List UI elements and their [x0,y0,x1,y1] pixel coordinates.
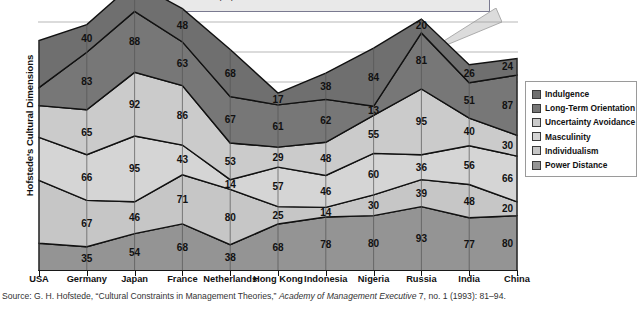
legend: IndulgenceLong-Term OrientationUncertain… [525,81,637,177]
data-value-label: 46 [320,186,332,197]
plot-area: 4035546838687880937780916746718025143039… [38,0,518,271]
data-value-label: 30 [368,200,380,211]
data-value-label: 83 [81,76,93,87]
data-value-label: 13 [368,105,380,116]
data-value-label: 29 [272,152,284,163]
data-value-label: 77 [464,239,476,250]
data-value-label: 51 [464,95,476,106]
data-value-label: 46 [129,212,141,223]
data-value-label: 38 [225,252,237,263]
data-value-label: 17 [272,94,284,105]
data-value-label: 57 [272,181,284,192]
data-value-label: 26 [464,68,476,79]
data-value-label: 95 [416,116,428,127]
data-value-label: 61 [272,121,284,132]
data-value-label: 39 [416,188,428,199]
legend-item[interactable]: Power Distance [532,158,631,172]
source-note: Source: G. H. Hofstede, “Cultural Constr… [2,291,638,301]
data-value-label: 80 [225,212,237,223]
legend-item-label: Indulgence [545,89,589,99]
legend-item[interactable]: Uncertainty Avoidance [532,115,631,129]
data-value-label: 66 [502,173,514,184]
data-value-label: 14 [225,179,237,190]
data-value-label: 20 [502,203,514,214]
data-value-label: 36 [416,162,428,173]
data-value-label: 66 [81,172,93,183]
data-value-label: 42 [129,0,141,2]
data-value-label: 55 [368,129,380,140]
data-value-label: 43 [177,154,189,165]
data-value-label: 60 [368,169,380,180]
legend-item-label: Long-Term Orientation [545,103,635,113]
data-value-label: 67 [225,114,237,125]
chart-figure: has a strong long-term orientation (87),… [0,0,639,309]
data-value-label: 53 [225,156,237,167]
data-value-label: 54 [129,247,141,258]
data-value-label: 35 [81,253,93,264]
data-value-label: 68 [272,242,284,253]
legend-item[interactable]: Long-Term Orientation [532,101,631,115]
data-value-label: 63 [177,58,189,69]
legend-swatch-icon [532,161,541,170]
x-axis-ticks [38,271,518,277]
legend-swatch-icon [532,90,541,99]
data-value-label: 67 [81,218,93,229]
data-value-label: 95 [129,163,141,174]
legend-swatch-icon [532,104,541,113]
legend-swatch-icon [532,132,541,141]
data-value-label: 88 [129,36,141,47]
data-value-label: 48 [464,196,476,207]
legend-swatch-icon [532,146,541,155]
data-value-label: 48 [177,20,189,31]
data-value-label: 20 [416,20,428,31]
data-value-label: 14 [320,207,332,218]
legend-item-label: Power Distance [545,160,607,170]
data-value-label: 24 [502,61,514,72]
legend-item-label: Masculinity [545,132,591,142]
data-value-label: 87 [502,100,514,111]
stacked-area-svg: 4035546838687880937780916746718025143039… [38,0,518,271]
data-value-label: 65 [81,127,93,138]
data-value-label: 38 [320,81,332,92]
data-value-label: 78 [320,239,332,250]
data-value-label: 48 [320,153,332,164]
source-suffix: 7, no. 1 (1993): 81–94. [416,291,505,301]
data-value-label: 62 [320,115,332,126]
source-italic: Academy of Management Executive [279,291,417,301]
legend-swatch-icon [532,118,541,127]
data-value-label: 68 [225,68,237,79]
legend-item-label: Individualism [545,146,599,156]
legend-item[interactable]: Indulgence [532,87,631,101]
data-value-label: 80 [502,238,514,249]
source-prefix: Source: G. H. Hofstede, “Cultural Constr… [2,291,279,301]
data-value-label: 30 [502,140,514,151]
data-value-label: 40 [464,126,476,137]
data-value-label: 93 [416,233,428,244]
legend-item[interactable]: Individualism [532,144,631,158]
data-value-label: 56 [464,160,476,171]
data-value-label: 25 [272,210,284,221]
data-value-label: 86 [177,110,189,121]
left-value-gutter [0,0,40,271]
legend-item[interactable]: Masculinity [532,130,631,144]
data-value-label: 40 [81,33,93,44]
data-value-label: 81 [416,55,428,66]
data-value-label: 92 [129,99,141,110]
data-value-label: 80 [368,238,380,249]
data-value-label: 84 [368,72,380,83]
legend-item-label: Uncertainty Avoidance [545,117,635,127]
data-value-label: 68 [177,242,189,253]
data-value-label: 71 [177,194,189,205]
